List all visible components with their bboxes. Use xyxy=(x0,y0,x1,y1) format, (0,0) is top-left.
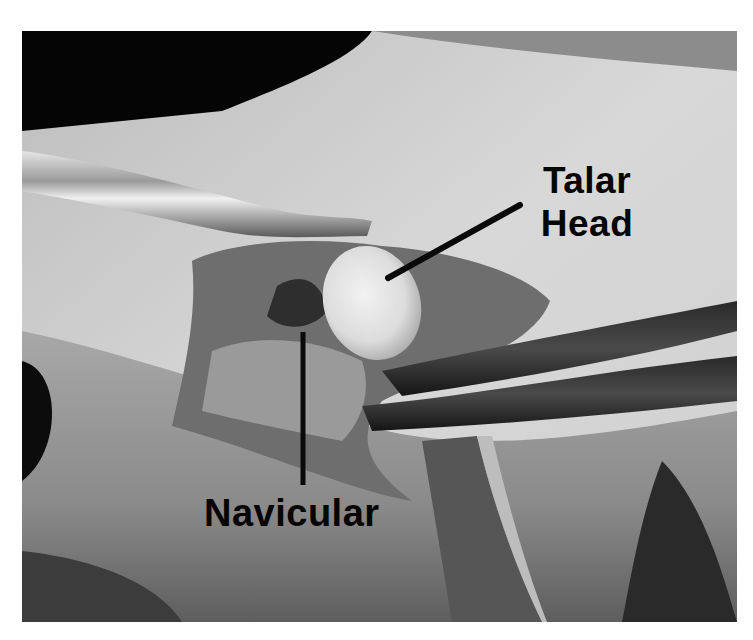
navicular-label: Navicular xyxy=(204,494,380,532)
talar-head-label-line1: Talar xyxy=(512,162,662,199)
talar-head-label: Talar Head xyxy=(512,162,662,242)
talar-head-label-line2: Head xyxy=(512,205,662,242)
